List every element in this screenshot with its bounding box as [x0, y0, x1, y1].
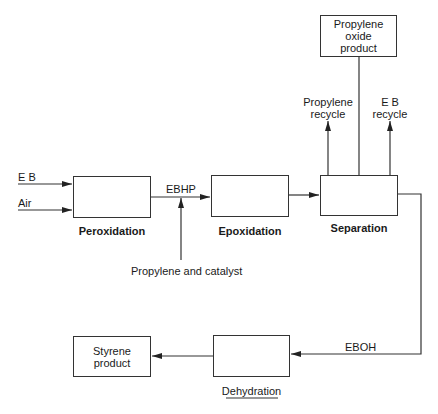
- input-label-eb: E B: [18, 171, 36, 183]
- unit-dehydration: [213, 335, 290, 377]
- label-dehydration: Dehydration: [213, 385, 290, 397]
- unit-epoxidation: [211, 175, 289, 217]
- stream-text: recycle: [303, 108, 353, 120]
- stream-text: Propylene: [303, 96, 353, 108]
- product-text: Propylene: [334, 18, 384, 30]
- product-text: oxide: [345, 30, 371, 42]
- stream-propylene-catalyst: Propylene and catalyst: [131, 265, 242, 277]
- stream-text: E B: [369, 96, 411, 108]
- product-text: Styrene: [93, 345, 131, 357]
- input-label-air: Air: [18, 197, 31, 209]
- unit-peroxidation: [73, 176, 151, 218]
- product-propylene-oxide: Propylene oxide product: [320, 15, 397, 57]
- stream-text: recycle: [369, 108, 411, 120]
- unit-separation: [320, 175, 398, 216]
- label-peroxidation: Peroxidation: [73, 225, 151, 237]
- stream-eb-recycle: E B recycle: [369, 96, 411, 120]
- product-text: product: [340, 42, 377, 54]
- stream-propylene-recycle: Propylene recycle: [303, 96, 353, 120]
- label-separation: Separation: [320, 222, 398, 234]
- stream-ebhp: EBHP: [166, 183, 196, 195]
- label-epoxidation: Epoxidation: [211, 225, 289, 237]
- product-text: product: [94, 357, 131, 369]
- stream-eboh: EBOH: [345, 341, 376, 353]
- product-styrene: Styrene product: [73, 336, 151, 377]
